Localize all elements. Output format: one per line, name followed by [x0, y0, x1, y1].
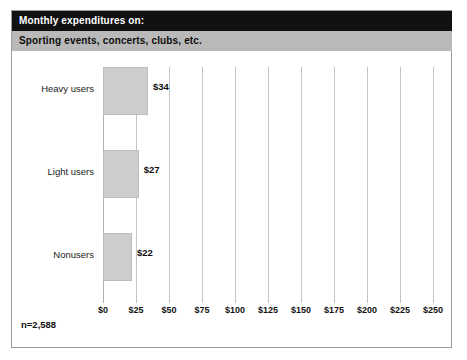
x-tick-label-100: $100: [225, 305, 245, 315]
x-tick-label-200: $200: [357, 305, 377, 315]
bar-0: [103, 67, 148, 115]
x-tick-label-0: $0: [98, 305, 108, 315]
bar-row: Light users $27: [12, 144, 452, 224]
x-tick-label-150: $150: [291, 305, 311, 315]
bar-1: [103, 150, 139, 198]
plot-area: Heavy users $34 Light users $27 Nonusers…: [12, 51, 452, 348]
x-tick-label-175: $175: [324, 305, 344, 315]
chart-title-secondary: Sporting events, concerts, clubs, etc.: [12, 31, 452, 51]
x-axis: $0$25$50$75$100$125$150$175$200$225$250: [12, 303, 452, 321]
chart-frame: Monthly expenditures on: Sporting events…: [11, 10, 452, 348]
x-tick-label-50: $50: [161, 305, 176, 315]
bar-value-label-1: $27: [144, 164, 160, 175]
x-tick-label-125: $125: [258, 305, 278, 315]
category-label-0: Heavy users: [12, 83, 94, 94]
bar-series: Heavy users $34 Light users $27 Nonusers…: [12, 51, 452, 311]
bar-2: [103, 233, 132, 281]
bar-value-label-0: $34: [153, 81, 169, 92]
category-label-2: Nonusers: [12, 249, 94, 260]
sample-size-note: n=2,588: [21, 319, 56, 330]
x-tick-label-225: $225: [390, 305, 410, 315]
bar-row: Nonusers $22: [12, 227, 452, 307]
bar-value-label-2: $22: [137, 247, 153, 258]
x-tick-label-75: $75: [194, 305, 209, 315]
category-label-1: Light users: [12, 166, 94, 177]
chart-title-primary: Monthly expenditures on:: [12, 11, 452, 31]
x-tick-label-25: $25: [128, 305, 143, 315]
bar-row: Heavy users $34: [12, 61, 452, 141]
x-tick-label-250: $250: [423, 305, 443, 315]
